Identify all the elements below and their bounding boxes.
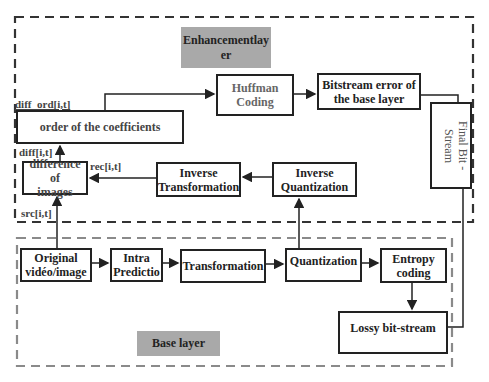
enhancement-layer-label: Enhancementlay er [181, 27, 271, 68]
enhancement-label-line2: er [221, 48, 232, 63]
entropy-line1: Entropy [392, 252, 434, 266]
original-line2: vidéo/image [25, 265, 86, 279]
quantization-text: Quantization [290, 254, 357, 268]
final-bitstream-text: Final Bit - Stream [442, 106, 470, 186]
inverse-transformation-block: Inverse Transformation [156, 162, 241, 197]
lossy-bitstream-text: Lossy bit-stream [350, 321, 435, 335]
difference-line1: difference of [24, 157, 86, 185]
inv-quant-line1: Inverse [296, 166, 334, 180]
inverse-quantization-block: Inverse Quantization [272, 162, 357, 197]
bitstream-error-line2: the base layer [334, 92, 405, 106]
difference-images-block: difference of images [22, 161, 88, 195]
quantization-block: Quantization [285, 248, 362, 282]
final-bitstream-block: Final Bit - Stream [430, 102, 472, 189]
enhancement-label-line1: Enhancementlay [183, 33, 269, 48]
huffman-coding-block: Huffman Coding [216, 74, 294, 116]
intra-line2: Predictio [113, 265, 159, 279]
original-video-block: Original vidéo/image [20, 248, 92, 282]
intra-line1: Intra [123, 251, 150, 265]
signal-diff: diff[i,t] [19, 146, 52, 158]
signal-rec: rec[i,t] [90, 160, 121, 172]
huffman-line1: Huffman [232, 81, 279, 95]
base-layer-label: Base layer [137, 331, 220, 356]
inv-transform-line1: Inverse [180, 166, 218, 180]
bitstream-error-block: Bitstream error of the base layer [317, 73, 421, 110]
signal-diff-ord: diff_ord[i,t] [15, 98, 70, 110]
huffman-line2: Coding [236, 95, 273, 109]
difference-line2: images [37, 185, 72, 199]
order-coefficients-text: order of the coefficients [40, 120, 161, 134]
entropy-line2: coding [396, 266, 430, 280]
transformation-block: Transformation [180, 249, 266, 283]
entropy-coding-block: Entropy coding [380, 248, 447, 283]
intra-prediction-block: Intra Predictio [110, 248, 163, 282]
inv-transform-line2: Transformation [158, 180, 239, 194]
order-coefficients-block: order of the coefficients [16, 110, 184, 144]
lossy-bitstream-block: Lossy bit-stream [338, 311, 448, 354]
inv-quant-line2: Quantization [281, 180, 348, 194]
base-layer-label-text: Base layer [152, 336, 205, 351]
original-line1: Original [34, 251, 77, 265]
signal-src: src[i,t] [21, 207, 52, 219]
transformation-text: Transformation [182, 259, 263, 273]
bitstream-error-line1: Bitstream error of [322, 78, 415, 92]
